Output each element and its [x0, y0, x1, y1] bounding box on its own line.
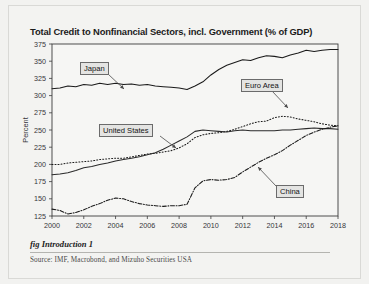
y-tick-label: 375	[34, 40, 46, 49]
y-tick-label: 300	[34, 91, 46, 100]
x-tick-label: 2006	[139, 221, 155, 230]
x-tick-label: 2002	[76, 221, 92, 230]
series-label-japan: Japan	[80, 62, 109, 75]
x-tick-label: 2010	[203, 221, 219, 230]
y-tick-label: 350	[34, 57, 46, 66]
y-tick-label: 225	[34, 143, 46, 152]
series-label-china: China	[276, 185, 304, 198]
figure-page: Total Credit to Nonfinancial Sectors, in…	[0, 0, 369, 284]
x-tick-label: 2004	[108, 221, 124, 230]
y-tick-label: 175	[34, 177, 46, 186]
series-label-euro-area: Euro Area	[241, 79, 283, 92]
caption-divider	[30, 252, 330, 253]
y-tick-label: 125	[34, 212, 46, 221]
y-tick-label: 275	[34, 108, 46, 117]
x-tick-label: 2008	[171, 221, 187, 230]
x-tick-label: 2018	[330, 221, 346, 230]
figure-caption: fig Introduction 1	[30, 239, 93, 249]
y-tick-label: 150	[34, 194, 46, 203]
x-tick-label: 2014	[266, 221, 282, 230]
figure-source: Source: IMF, Macrobond, and Mizuho Secur…	[30, 256, 192, 264]
x-tick-label: 2012	[235, 221, 251, 230]
y-tick-label: 325	[34, 74, 46, 83]
y-tick-label: 200	[34, 160, 46, 169]
x-tick-label: 2016	[298, 221, 314, 230]
series-label-united-states: United States	[99, 124, 153, 137]
x-tick-label: 2000	[44, 221, 60, 230]
y-tick-label: 250	[34, 126, 46, 135]
y-axis-title: Percent	[21, 117, 30, 142]
